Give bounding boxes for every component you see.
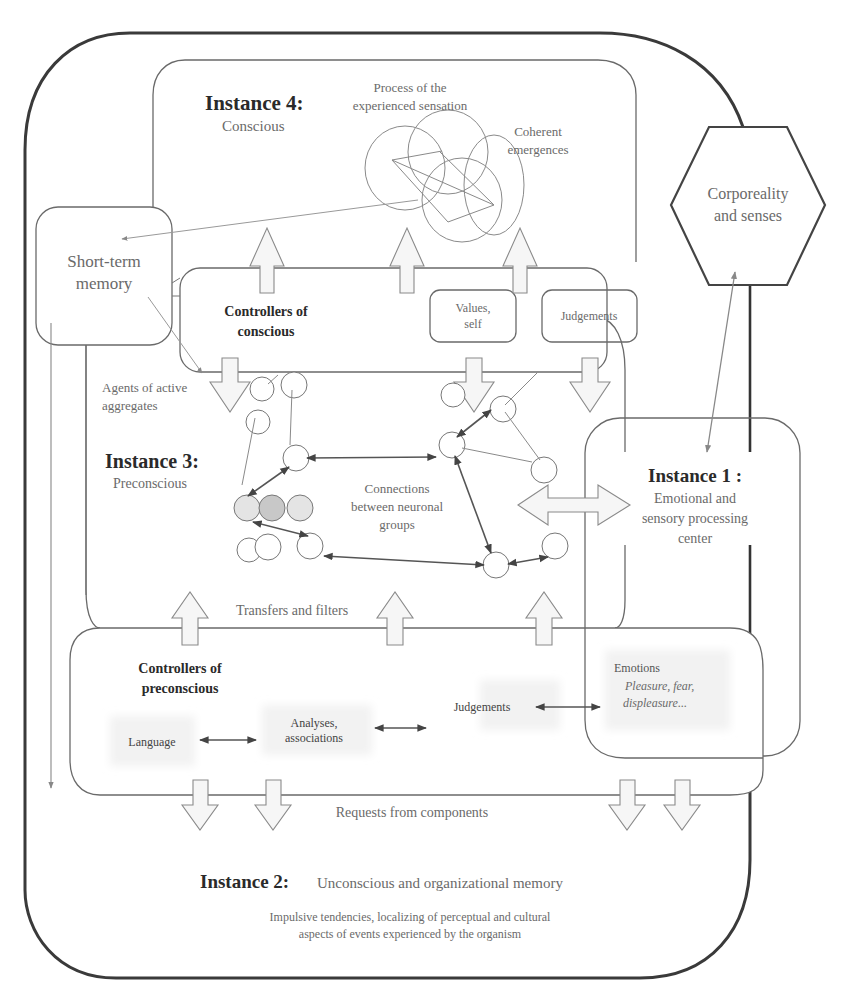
agents-label-1: Agents of active (102, 380, 187, 395)
connections-label-1: Connections (365, 481, 430, 496)
controllers-preconscious-title-2: preconscious (142, 681, 219, 696)
short-term-memory-label-2: memory (76, 274, 133, 293)
transfers-label: Transfers and filters (236, 603, 348, 618)
controllers-conscious-box[interactable] (180, 268, 607, 372)
instance1-label-3: center (678, 531, 713, 546)
values-self-label-2: self (464, 317, 481, 331)
controllers-preconscious-title-1: Controllers of (138, 661, 222, 676)
process-label-1: Process of the (374, 80, 447, 95)
corporeality-label-2: and senses (714, 207, 782, 224)
coherent-emergences-cluster (365, 110, 524, 242)
agents-label-2: aggregates (102, 398, 158, 413)
instance3-instance1-double-arrow (518, 485, 630, 525)
instance1-to-corporeality-arrow (707, 272, 735, 452)
emotions-detail-2: displeasure... (623, 696, 687, 710)
conscious-judgements-label: Judgements (561, 309, 618, 323)
instance3-subtitle: Preconscious (113, 476, 187, 491)
connections-label-2: between neuronal (351, 499, 443, 514)
requests-label: Requests from components (336, 805, 488, 820)
values-self-label-1: Values, (456, 301, 491, 315)
neuronal-groups (234, 372, 568, 578)
preconscious-judgements-label: Judgements (454, 700, 511, 714)
instance2-heading: Instance 2: Unconscious and organization… (200, 871, 563, 892)
corporeality-hexagon[interactable] (671, 127, 825, 285)
analyses-label-1: Analyses, (291, 716, 338, 730)
coherent-label-2: emergences (507, 142, 568, 157)
instance4-subtitle: Conscious (222, 118, 285, 134)
emotions-label: Emotions (614, 661, 660, 675)
controllers-conscious-title-2: conscious (238, 324, 295, 339)
controllers-conscious-title-1: Controllers of (224, 304, 308, 319)
instance2-title: Instance 2: (200, 871, 289, 892)
short-term-memory-label-1: Short-term (67, 252, 141, 271)
instance2-desc-2: aspects of events experienced by the org… (299, 927, 522, 941)
instance1-label-2: sensory processing (642, 511, 748, 526)
consciousness-instances-diagram: Instance 4: Conscious Process of the exp… (0, 0, 848, 1004)
process-label-2: experienced sensation (353, 98, 468, 113)
connections-label-3: groups (379, 517, 414, 532)
instance2-desc-1: Impulsive tendencies, localizing of perc… (270, 910, 552, 924)
coherent-label-1: Coherent (514, 124, 562, 139)
corporeality-label-1: Corporeality (708, 185, 789, 203)
language-label: Language (128, 735, 175, 749)
instance3-title: Instance 3: (105, 450, 199, 472)
instance1-title: Instance 1 : (648, 465, 742, 486)
emotions-detail-1: Pleasure, fear, (624, 679, 694, 693)
instance2-subtitle: Unconscious and organizational memory (317, 875, 563, 891)
instance4-title: Instance 4: (205, 91, 304, 115)
instance1-label-1: Emotional and (654, 491, 736, 506)
analyses-label-2: associations (285, 731, 343, 745)
